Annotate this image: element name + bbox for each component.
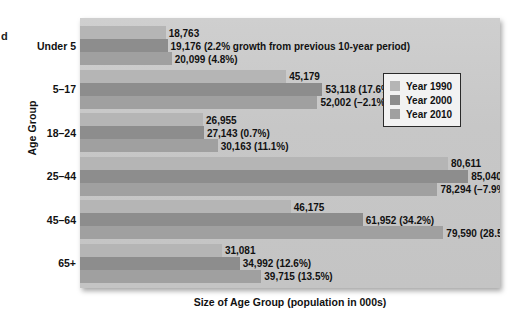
bar-value-label: 52,002 (–2.1%) — [317, 97, 388, 108]
bar-y2000 — [80, 39, 168, 52]
legend-swatch-icon-1990 — [390, 81, 400, 91]
bar-row: 80,611 — [80, 157, 500, 170]
bar-value-label: 46,175 — [291, 201, 325, 212]
bar-y2000 — [80, 257, 240, 270]
bar-row: 31,081 — [80, 244, 500, 257]
bar-y2000 — [80, 83, 322, 96]
x-axis-title: Size of Age Group (population in 000s) — [80, 296, 500, 308]
legend-swatch-icon-2010 — [390, 109, 400, 119]
bar-value-label: 27,143 (0.7%) — [204, 127, 270, 138]
bar-y1990 — [80, 26, 166, 39]
bar-row: 19,176 (2.2% growth from previous 10-yea… — [80, 39, 500, 52]
category-label-3: 18–24 — [10, 127, 76, 139]
bar-row: 78,294 (–7.9%) — [80, 183, 500, 196]
legend-label-2000: Year 2000 — [406, 95, 452, 106]
legend-label-2010: Year 2010 — [406, 109, 452, 120]
bar-value-label: 85,040 (5.5%) — [468, 171, 500, 182]
legend-label-1990: Year 1990 — [406, 81, 452, 92]
legend-item-2010: Year 2010 — [390, 107, 452, 121]
bar-y2010 — [80, 270, 261, 283]
edge-artifact-glyph: d — [1, 30, 9, 42]
bar-value-label: 80,611 — [448, 158, 481, 169]
bar-row: 18,763 — [80, 26, 500, 39]
bar-row: 27,143 (0.7%) — [80, 126, 500, 139]
bar-value-label: 20,099 (4.8%) — [172, 53, 238, 64]
bar-value-label: 61,952 (34.2%) — [363, 214, 434, 225]
bar-value-label: 30,163 (11.1%) — [218, 140, 289, 151]
legend-item-1990: Year 1990 — [390, 79, 452, 93]
bar-value-label: 26,955 — [203, 114, 237, 125]
bar-y1990 — [80, 70, 286, 83]
bar-y2010 — [80, 96, 317, 109]
bar-row: 34,992 (12.6%) — [80, 257, 500, 270]
bar-row: 79,590 (28.5%) — [80, 226, 500, 239]
legend-swatch-icon-2000 — [390, 95, 400, 105]
category-label-5: 45–64 — [10, 214, 76, 226]
bar-row: 39,715 (13.5%) — [80, 270, 500, 283]
legend-item-2000: Year 2000 — [390, 93, 452, 107]
plot-panel: 18,76319,176 (2.2% growth from previous … — [80, 18, 500, 288]
bar-row: 85,040 (5.5%) — [80, 170, 500, 183]
bar-value-label: 78,294 (–7.9%) — [437, 184, 500, 195]
bar-y2010 — [80, 52, 172, 65]
bar-y1990 — [80, 244, 222, 257]
bar-y2010 — [80, 139, 218, 152]
bar-chart-figure: d Age Group Under 55–1718–2425–4445–6465… — [0, 0, 524, 330]
bar-row: 20,099 (4.8%) — [80, 52, 500, 65]
category-label-column: Under 55–1718–2425–4445–6465+ — [10, 22, 76, 284]
category-label-1: Under 5 — [10, 40, 76, 52]
bar-row: 61,952 (34.2%) — [80, 213, 500, 226]
bar-y2010 — [80, 183, 437, 196]
bar-value-label: 19,176 (2.2% growth from previous 10-yea… — [168, 40, 411, 51]
category-label-2: 5–17 — [10, 83, 76, 95]
bar-y2010 — [80, 226, 443, 239]
category-label-6: 65+ — [10, 257, 76, 269]
bar-y2000 — [80, 126, 204, 139]
bar-row: 30,163 (11.1%) — [80, 139, 500, 152]
bar-value-label: 79,590 (28.5%) — [443, 227, 500, 238]
bar-y1990 — [80, 157, 448, 170]
bar-value-label: 39,715 (13.5%) — [261, 271, 332, 282]
bar-value-label: 45,179 — [286, 71, 320, 82]
bar-row: 46,175 — [80, 200, 500, 213]
bar-y2000 — [80, 213, 363, 226]
bar-value-label: 18,763 — [166, 27, 200, 38]
bar-y2000 — [80, 170, 468, 183]
chart-legend: Year 1990 Year 2000 Year 2010 — [383, 73, 461, 127]
category-label-4: 25–44 — [10, 170, 76, 182]
bar-value-label: 34,992 (12.6%) — [240, 258, 311, 269]
bar-y1990 — [80, 113, 203, 126]
bar-y1990 — [80, 200, 291, 213]
bar-value-label: 31,081 — [222, 245, 256, 256]
